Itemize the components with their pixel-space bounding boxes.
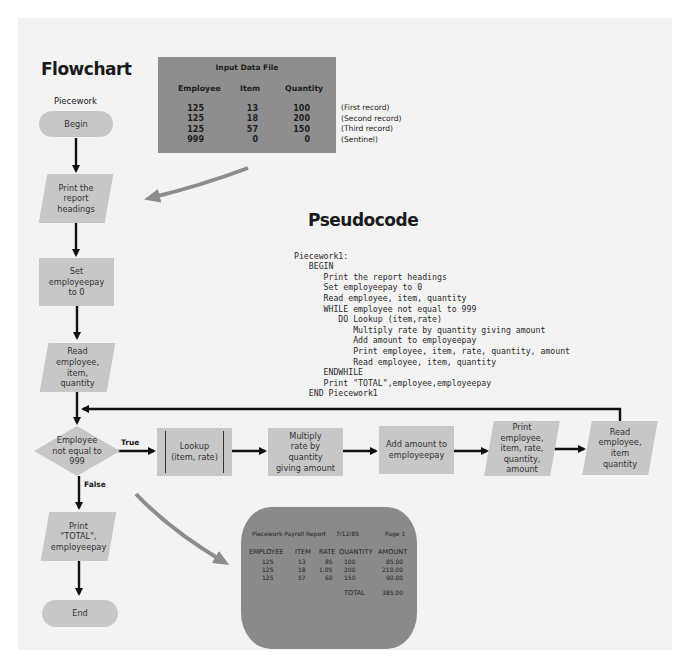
input-file-title: Input Data File bbox=[158, 63, 336, 72]
input-cell: 125 bbox=[182, 104, 204, 113]
input-cell: 150 bbox=[288, 125, 310, 134]
print-detail-node: Print employee, item, rate, quantity, am… bbox=[489, 421, 555, 476]
report-total-label: TOTAL bbox=[344, 589, 365, 597]
read-first-label: Read employee, item, quantity bbox=[56, 346, 99, 388]
input-cell: 200 bbox=[288, 114, 310, 123]
code-line: Read employee, item, quantity bbox=[294, 293, 570, 304]
end-label: End bbox=[72, 608, 88, 619]
code-line: Print employee, item, rate, quantity, am… bbox=[294, 346, 570, 357]
pseudocode-title: Pseudocode bbox=[308, 210, 418, 230]
report-cell: 85.00 bbox=[386, 558, 403, 565]
read-next-label: Read employee, item quantity bbox=[598, 427, 641, 469]
add-node: Add amount to employeepay bbox=[379, 426, 454, 474]
report-cell: 18 bbox=[298, 566, 306, 573]
input-cell: 18 bbox=[238, 114, 258, 123]
input-cell: 57 bbox=[238, 125, 258, 134]
lookup-label: Lookup (item, rate) bbox=[171, 441, 218, 462]
note-second: (Second record) bbox=[341, 114, 402, 125]
input-col-item: Item bbox=[240, 84, 260, 93]
code-line: Read employee, item, quantity bbox=[294, 357, 570, 368]
multiply-label: Multiply rate by quantity giving amount bbox=[276, 431, 335, 473]
print-headings-label: Print the report headings bbox=[57, 183, 94, 215]
code-line: BEGIN bbox=[294, 261, 570, 272]
report-cell: 150 bbox=[344, 574, 355, 581]
input-record-notes: (First record) (Second record) (Third re… bbox=[341, 103, 402, 145]
flowchart-subtitle: Piecework bbox=[54, 96, 97, 106]
report-date: 7/12/85 bbox=[336, 530, 359, 537]
code-line: Print "TOTAL",employee,employeepay bbox=[294, 378, 570, 389]
report-cell: 60 bbox=[325, 574, 333, 581]
report-cell: 1.05 bbox=[319, 566, 332, 573]
report-total-value: 385.00 bbox=[382, 589, 403, 596]
print-total-node: Print "TOTAL", employeepay bbox=[45, 512, 112, 561]
report-col-amount: AMOUNT bbox=[378, 548, 407, 556]
report-cell: 200 bbox=[344, 566, 355, 573]
code-line: Piecework1: bbox=[294, 251, 570, 262]
code-line: DO Lookup (item,rate) bbox=[294, 314, 570, 325]
begin-node: Begin bbox=[39, 111, 113, 137]
report-cell: 90.00 bbox=[386, 574, 403, 581]
print-detail-label: Print employee, item, rate, quantity, am… bbox=[500, 422, 543, 475]
input-data-file: Input Data File Employee Item Quantity 1… bbox=[158, 57, 336, 153]
multiply-node: Multiply rate by quantity giving amount bbox=[268, 428, 343, 476]
report-screen: Piecework Payroll Report 7/12/85 Page 1 … bbox=[241, 507, 417, 649]
input-cell: 0 bbox=[288, 135, 310, 144]
set-pay-label: Set employeepay to 0 bbox=[49, 266, 104, 298]
add-label: Add amount to employeepay bbox=[386, 439, 447, 460]
input-cell: 999 bbox=[182, 135, 204, 144]
note-sentinel: (Sentinel) bbox=[341, 135, 402, 146]
code-line: Multiply rate by quantity giving amount bbox=[294, 325, 570, 336]
input-cell: 125 bbox=[182, 114, 204, 123]
input-col-employee: Employee bbox=[178, 84, 221, 93]
decision-label: Employee not equal to 999 bbox=[52, 435, 102, 467]
false-label: False bbox=[84, 480, 106, 489]
note-first: (First record) bbox=[341, 103, 402, 114]
true-label: True bbox=[121, 438, 139, 447]
pseudocode-block: Piecework1: BEGIN Print the report headi… bbox=[294, 240, 570, 410]
report-cell: 125 bbox=[262, 566, 273, 573]
code-line: Print the report headings bbox=[294, 272, 570, 283]
decision-text-wrap: Employee not equal to 999 bbox=[34, 426, 120, 476]
input-cell: 100 bbox=[288, 104, 310, 113]
input-cell: 13 bbox=[238, 104, 258, 113]
report-title: Piecework Payroll Report bbox=[252, 530, 326, 537]
input-cell: 0 bbox=[238, 135, 258, 144]
read-next-node: Read employee, item quantity bbox=[587, 421, 653, 475]
input-col-quantity: Quantity bbox=[285, 84, 323, 93]
report-col-rate: RATE bbox=[319, 548, 336, 556]
flowchart-title: Flowchart bbox=[41, 59, 132, 79]
lookup-right-bar bbox=[223, 431, 224, 473]
report-col-item: ITEM bbox=[295, 548, 311, 556]
code-line: Set employeepay to 0 bbox=[294, 282, 570, 293]
code-line: Add amount to employeepay bbox=[294, 335, 570, 346]
begin-label: Begin bbox=[64, 119, 87, 130]
code-line: END Piecework1 bbox=[294, 388, 570, 399]
code-line: ENDWHILE bbox=[294, 367, 570, 378]
report-page: Page 1 bbox=[385, 530, 405, 537]
report-cell: 125 bbox=[262, 558, 273, 565]
lookup-node: Lookup (item, rate) bbox=[157, 428, 232, 476]
code-line: WHILE employee not equal to 999 bbox=[294, 304, 570, 315]
report-col-quantity: QUANTITY bbox=[339, 548, 373, 556]
lookup-left-bar bbox=[165, 431, 166, 473]
print-total-label: Print "TOTAL", employeepay bbox=[51, 521, 106, 553]
input-cell: 125 bbox=[182, 125, 204, 134]
report-cell: 100 bbox=[344, 558, 355, 565]
end-node: End bbox=[42, 600, 118, 627]
gray-arrow-to-report bbox=[136, 494, 224, 562]
print-headings-node: Print the report headings bbox=[43, 174, 109, 223]
report-cell: 210.00 bbox=[382, 566, 403, 573]
report-col-employee: EMPLOYEE bbox=[249, 548, 283, 556]
gray-arrow-input-to-headings bbox=[150, 168, 248, 198]
note-third: (Third record) bbox=[341, 124, 402, 135]
report-cell: 85 bbox=[325, 558, 333, 565]
report-cell: 57 bbox=[298, 574, 306, 581]
report-cell: 125 bbox=[262, 574, 273, 581]
report-cell: 13 bbox=[298, 558, 306, 565]
read-first-node: Read employee, item, quantity bbox=[44, 343, 111, 392]
set-pay-node: Set employeepay to 0 bbox=[39, 258, 114, 306]
